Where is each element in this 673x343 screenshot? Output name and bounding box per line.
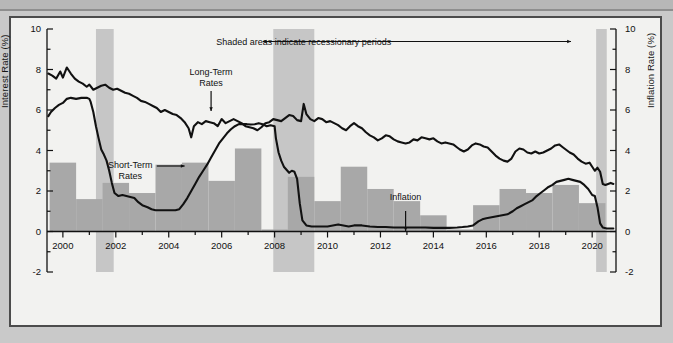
x-tick-label: 2006 <box>204 240 240 251</box>
x-tick-label: 2014 <box>415 240 451 251</box>
y-tick-label-right: 8 <box>625 64 630 75</box>
recession-band <box>596 29 607 272</box>
y-tick-label-left: 4 <box>15 145 41 156</box>
arrow-head <box>567 40 571 43</box>
right-axis-title: Inflation Rate (%) <box>645 33 656 108</box>
recession-band <box>96 29 114 272</box>
x-tick-label: 2008 <box>257 240 293 251</box>
y-tick-label-left: 8 <box>15 64 41 75</box>
inflation-bar <box>182 163 208 232</box>
long-term-rates-label-line1: Long-Term <box>190 67 233 77</box>
y-tick-label-right: 4 <box>625 145 630 156</box>
inflation-bar <box>156 165 182 232</box>
recession-annotation: Shaded areas indicate recessionary perio… <box>216 37 391 48</box>
y-tick-label-left: -2 <box>15 266 41 277</box>
recession-band <box>273 29 314 272</box>
x-tick-label: 2012 <box>362 240 398 251</box>
long-term-rates-label-line2: Rates <box>199 78 223 88</box>
figure-root: Interest Rate (%) Inflation Rate (%) 108… <box>0 0 673 343</box>
axis-lines-group <box>47 29 616 272</box>
inflation-bar <box>341 167 367 232</box>
short-term-rates-annotation: Short-Term Rates <box>108 160 153 182</box>
inflation-bar <box>288 177 314 232</box>
left-axis-title: Interest Rate (%) <box>0 34 10 108</box>
inflation-bar <box>235 148 261 231</box>
y-tick-label-right: 6 <box>625 104 630 115</box>
short-term-rates-label-line1: Short-Term <box>108 160 153 170</box>
x-tick-label: 2016 <box>468 240 504 251</box>
inflation-bar <box>103 183 129 232</box>
long-term-rates-annotation: Long-Term Rates <box>190 67 233 89</box>
x-tick-label: 2000 <box>45 240 81 251</box>
y-tick-label-right: -2 <box>625 266 633 277</box>
inflation-bar <box>76 199 102 231</box>
x-tick-label: 2018 <box>521 240 557 251</box>
short-term-rates-label-line2: Rates <box>119 171 143 181</box>
x-tick-label: 2002 <box>98 240 134 251</box>
y-tick-label-left: 10 <box>15 23 41 34</box>
y-tick-label-right: 10 <box>625 23 636 34</box>
recession-bands-group <box>96 29 607 272</box>
x-tick-label: 2010 <box>310 240 346 251</box>
y-tick-label-left: 0 <box>15 226 41 237</box>
inflation-bar <box>208 181 234 232</box>
arrow-head <box>209 107 212 111</box>
inflation-bar <box>420 215 446 231</box>
x-tick-label: 2020 <box>574 240 610 251</box>
inflation-bar <box>552 185 578 232</box>
inflation-bar <box>526 193 552 231</box>
inflation-bar <box>50 163 76 232</box>
y-tick-label-left: 6 <box>15 104 41 115</box>
y-tick-label-right: 2 <box>625 185 630 196</box>
y-tick-label-right: 0 <box>625 226 630 237</box>
y-tick-label-left: 2 <box>15 185 41 196</box>
chart-canvas <box>0 0 673 343</box>
x-tick-label: 2004 <box>151 240 187 251</box>
inflation-annotation: Inflation <box>390 192 422 203</box>
